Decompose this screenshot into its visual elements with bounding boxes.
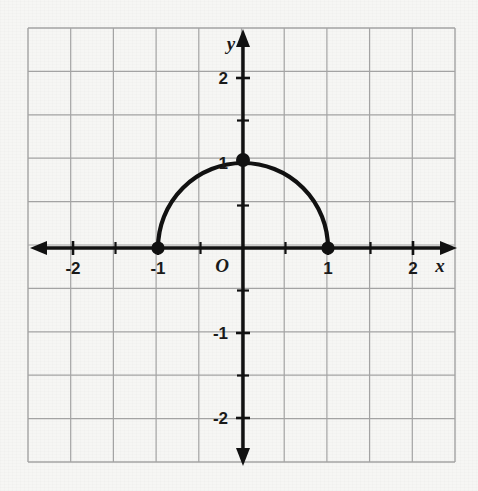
- point-apex: [236, 153, 250, 167]
- x-tick-label-pos1: 1: [323, 259, 332, 278]
- y-axis-label: y: [225, 33, 236, 54]
- x-tick-label-neg2: -2: [65, 259, 80, 278]
- x-tick-label-neg1: -1: [150, 259, 165, 278]
- origin-label: O: [215, 255, 229, 276]
- y-axis-arrow-up: [236, 29, 250, 47]
- point-left-endpoint: [151, 241, 164, 254]
- coordinate-plane-svg: -2 -1 1 2 2 1 -1 -2 O y x: [0, 0, 478, 491]
- y-axis-arrow-down: [236, 448, 250, 466]
- y-tick-label-pos2: 2: [219, 69, 228, 88]
- y-tick-label-pos1: 1: [219, 154, 228, 173]
- x-tick-label-pos2: 2: [408, 259, 417, 278]
- y-tick-label-neg1: -1: [213, 324, 228, 343]
- x-axis-label: x: [434, 255, 445, 276]
- point-right-endpoint: [321, 241, 334, 254]
- y-tick-label-neg2: -2: [213, 409, 228, 428]
- x-axis-arrow-left: [30, 241, 47, 255]
- graph-figure: -2 -1 1 2 2 1 -1 -2 O y x: [0, 0, 478, 491]
